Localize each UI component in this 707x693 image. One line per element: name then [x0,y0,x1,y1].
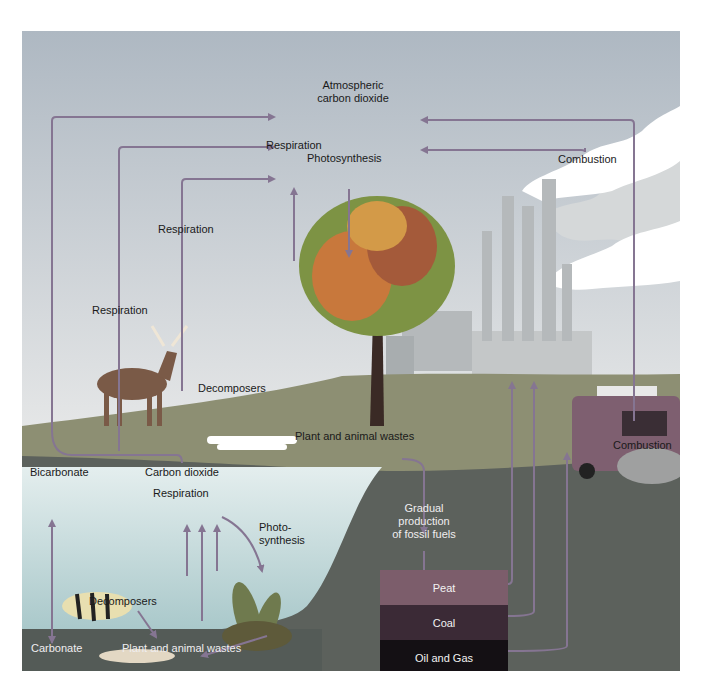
label-respiration-decomposers: Respiration [158,223,214,236]
label-photo-line2: synthesis [259,534,305,547]
label-wastes-land: Plant and animal wastes [295,430,414,443]
label-decomposers-water: Decomposers [89,595,157,608]
label-atmospheric-line1: Atmospheric [317,79,389,92]
label-fossil-production: Gradual production of fossil fuels [392,502,456,541]
label-combustion-factory: Combustion [558,153,617,166]
carbon-cycle-diagram: Peat Coal Oil and Gas Atmospheric carbon… [22,31,680,671]
fossil-layer-peat: Peat [380,570,508,605]
label-atmospheric-co2: Atmospheric carbon dioxide [317,79,389,105]
label-carbon-dioxide-water: Carbon dioxide [145,466,219,479]
label-wastes-water: Plant and animal wastes [122,642,241,655]
label-tree-photosynthesis: Photosynthesis [307,152,382,165]
label-photosynthesis-water: Photo- synthesis [259,521,305,547]
bones-illustration [207,436,297,450]
label-fossil-line3: of fossil fuels [392,528,456,541]
label-decomposers-land: Decomposers [198,382,266,395]
label-fossil-line2: production [392,515,456,528]
label-bicarbonate: Bicarbonate [30,466,89,479]
label-carbonate: Carbonate [31,642,82,655]
fossil-layer-coal: Coal [380,605,508,640]
diagram-artwork [22,31,680,671]
label-fossil-line1: Gradual [392,502,456,515]
label-photo-line1: Photo- [259,521,305,534]
fossil-layer-oil-gas: Oil and Gas [380,640,508,671]
label-combustion-vehicle: Combustion [613,439,672,452]
label-respiration-deer: Respiration [92,304,148,317]
label-respiration-water: Respiration [153,487,209,500]
label-tree-respiration: Respiration [266,139,322,152]
label-atmospheric-line2: carbon dioxide [317,92,389,105]
